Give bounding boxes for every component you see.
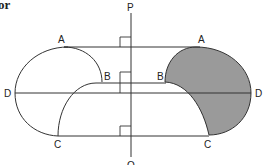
left-shape-inner-arc <box>58 83 96 136</box>
label-left-b: B <box>104 71 111 82</box>
right-angle-mark-c <box>120 126 131 136</box>
label-right-a: A <box>198 34 205 45</box>
label-right-b: B <box>157 71 164 82</box>
label-left-a: A <box>58 34 65 45</box>
label-q: Q <box>127 160 135 165</box>
right-angle-mark-a <box>120 37 131 47</box>
label-right-d: D <box>255 88 262 99</box>
reflection-diagram: or P Q A B D C A B D C <box>0 0 264 165</box>
label-left-d: D <box>4 88 11 99</box>
right-shape-shaded <box>165 47 251 135</box>
left-shape-outer-arc <box>15 47 68 136</box>
label-left-c: C <box>54 139 61 150</box>
label-right-c: C <box>204 139 211 150</box>
caption-fragment: or <box>0 0 11 12</box>
left-shape-top-arc <box>64 47 102 82</box>
label-p: P <box>127 2 134 13</box>
